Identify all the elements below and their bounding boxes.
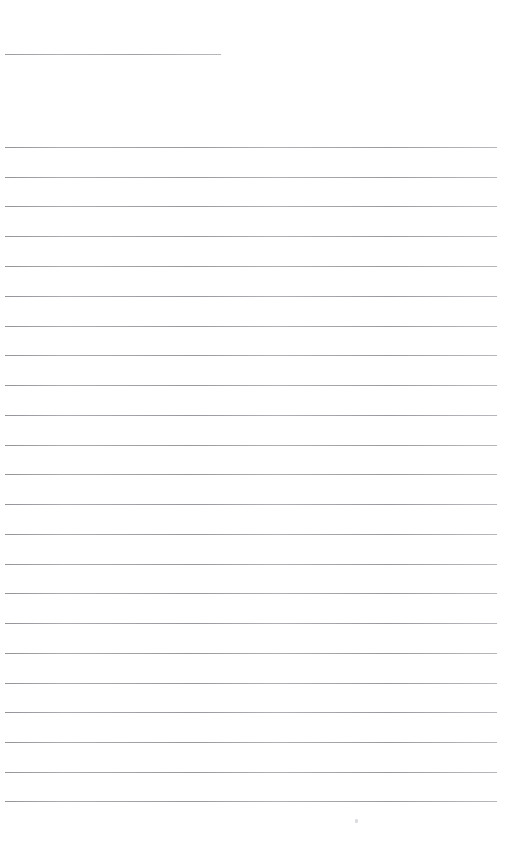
ruled-line: [5, 564, 497, 565]
ruled-line: [5, 385, 497, 386]
ruled-line: [5, 742, 497, 743]
ruled-line: [5, 296, 497, 297]
ruled-line: [5, 236, 497, 237]
document-page: [0, 0, 522, 847]
ruled-line: [5, 534, 497, 535]
ruled-line: [5, 206, 497, 207]
ruled-line: [5, 653, 497, 654]
ruled-line: [5, 772, 497, 773]
ruled-line: [5, 147, 497, 148]
ruled-line: [5, 623, 497, 624]
ruled-line: [5, 445, 497, 446]
scan-speck: [355, 819, 358, 823]
ruled-line: [5, 801, 497, 802]
ruled-line: [5, 355, 497, 356]
ruled-line: [5, 504, 497, 505]
header-underline: [5, 54, 221, 55]
ruled-line: [5, 593, 497, 594]
ruled-line: [5, 177, 497, 178]
ruled-line: [5, 683, 497, 684]
ruled-line: [5, 712, 497, 713]
ruled-line: [5, 415, 497, 416]
ruled-line: [5, 474, 497, 475]
ruled-line: [5, 326, 497, 327]
ruled-line: [5, 266, 497, 267]
